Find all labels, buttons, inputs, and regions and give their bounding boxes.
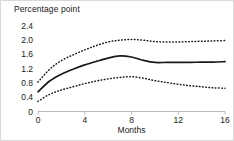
chart-figure: Percentage point 00.40.81.21.62.02.4 048… — [0, 0, 234, 141]
x-axis-tick-label: 16 — [220, 116, 229, 125]
x-axis-tick-label: 8 — [129, 116, 134, 125]
x-axis-tick-label: 12 — [174, 116, 183, 125]
series-line — [38, 77, 225, 102]
x-axis-tick-label: 0 — [36, 116, 41, 125]
data-series-layer — [38, 39, 225, 101]
x-axis-tick-label: 4 — [82, 116, 87, 125]
x-axis-label: Months — [118, 125, 146, 135]
series-line — [38, 39, 225, 82]
